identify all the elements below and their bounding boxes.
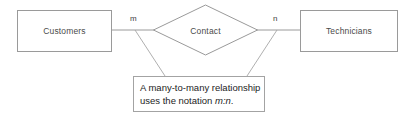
callout-note-line-2-suffix: . bbox=[231, 95, 234, 106]
callout-leader-line-right bbox=[247, 30, 277, 76]
callout-note-line-2-prefix: uses the notation bbox=[140, 95, 215, 106]
entity-label-customers: Customers bbox=[17, 26, 112, 36]
cardinality-label-m: m bbox=[130, 14, 137, 23]
relationship-label-contact: Contact bbox=[158, 26, 253, 36]
callout-note-line-2: uses the notation m:n. bbox=[140, 94, 260, 107]
callout-note-notation: m:n bbox=[215, 95, 231, 106]
entity-label-technicians: Technicians bbox=[300, 26, 398, 36]
callout-note-line-1: A many-to-many relationship bbox=[140, 81, 260, 94]
cardinality-label-n: n bbox=[273, 14, 277, 23]
er-diagram-canvas: Customers Contact Technicians m n A many… bbox=[0, 0, 417, 117]
callout-leader-line-left bbox=[135, 30, 165, 76]
callout-note-text: A many-to-many relationship uses the not… bbox=[140, 81, 260, 107]
